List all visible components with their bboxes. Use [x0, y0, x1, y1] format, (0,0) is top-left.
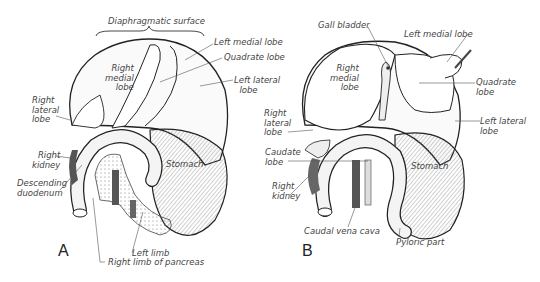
- label-diaphragmatic-surface: Diaphragmatic surface: [108, 17, 205, 27]
- panel-b-drawing: [288, 27, 480, 239]
- label-b-gall-bladder: Gall bladder: [318, 21, 370, 31]
- label-a-left-lateral-lobe: Left lateral lobe: [234, 76, 280, 95]
- panel-letter-a: A: [58, 242, 69, 260]
- panel-letter-b: B: [302, 242, 313, 260]
- label-a-descending-duodenum: Descending duodenum: [17, 179, 67, 198]
- label-b-caudal-vena-cava: Caudal vena cava: [304, 227, 380, 237]
- label-a-right-medial-lobe: Right medial lobe: [105, 64, 134, 93]
- label-b-left-medial-lobe: Left medial lobe: [404, 30, 473, 40]
- label-b-caudate-lobe: Caudate lobe: [265, 148, 301, 167]
- label-a-quadrate-lobe: Quadrate lobe: [224, 53, 285, 63]
- label-b-quadrate-lobe: Quadrate lobe: [476, 78, 516, 97]
- label-a-right-limb-of-pancreas: Right limb of pancreas: [108, 258, 204, 268]
- label-a-stomach: Stomach: [166, 160, 203, 170]
- label-b-right-kidney: Right kidney: [272, 182, 300, 201]
- panel-a-drawing: [56, 26, 233, 262]
- label-b-right-medial-lobe: Right medial lobe: [330, 64, 359, 93]
- label-b-right-lateral-lobe: Right lateral lobe: [264, 109, 291, 138]
- label-a-right-lateral-lobe: Right lateral lobe: [32, 96, 59, 125]
- label-b-stomach: Stomach: [411, 162, 448, 172]
- label-a-left-medial-lobe: Left medial lobe: [214, 38, 283, 48]
- label-b-pyloric-part: Pyloric part: [396, 238, 444, 248]
- label-b-left-lateral-lobe: Left lateral lobe: [480, 117, 526, 136]
- label-a-right-kidney: Right kidney: [32, 151, 60, 170]
